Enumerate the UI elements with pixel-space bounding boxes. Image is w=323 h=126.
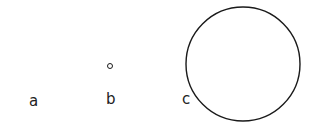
circle-c — [186, 7, 300, 121]
label-b: b — [106, 92, 116, 107]
circle-b — [108, 64, 113, 69]
label-a: a — [29, 94, 38, 109]
label-c: c — [182, 92, 190, 107]
circles-diagram — [0, 0, 323, 126]
